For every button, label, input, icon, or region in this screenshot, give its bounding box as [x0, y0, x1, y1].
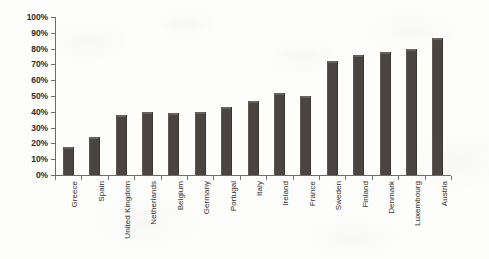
bar [327, 61, 338, 175]
y-axis-tick-mark [51, 143, 56, 144]
bar [380, 52, 391, 175]
y-axis-tick-label: 90% [6, 29, 48, 38]
y-axis-tick-mark [51, 159, 56, 160]
x-axis-category-label: Sweden [335, 181, 343, 210]
bar [300, 96, 311, 175]
x-axis-category-label: Ireland [282, 181, 290, 206]
x-axis-category-label: Finland [362, 181, 370, 208]
y-axis-tick-label: 100% [6, 13, 48, 22]
chart-screenshot: 100%90%80%70%60%50%40%30%20%10%0% Greece… [0, 0, 489, 259]
bar [142, 112, 153, 175]
x-axis-tick-mark [372, 176, 373, 180]
x-axis-tick-mark [345, 176, 346, 180]
x-axis-category-labels: GreeceSpainUnited KingdomNetherlandsBelg… [55, 181, 451, 257]
x-axis-tick-mark [81, 176, 82, 180]
y-axis-tick-mark [51, 112, 56, 113]
x-axis-tick-mark [55, 176, 56, 180]
bar [195, 112, 206, 175]
y-axis-tick-mark [51, 33, 56, 34]
plot-area [55, 17, 451, 175]
bar [406, 49, 417, 175]
x-axis-category-label: United Kingdom [124, 181, 132, 239]
bar [432, 38, 443, 175]
y-axis-tick-label: 50% [6, 92, 48, 101]
x-axis-tick-mark [293, 176, 294, 180]
x-axis-category-label: Italy [256, 181, 264, 196]
y-axis-tick-mark [51, 64, 56, 65]
bar [116, 115, 127, 175]
y-axis-tick-mark [51, 128, 56, 129]
x-axis-category-label: Belgium [177, 181, 185, 210]
x-axis-tick-mark [108, 176, 109, 180]
y-axis-tick-label: 80% [6, 44, 48, 53]
y-axis-tick-mark [51, 17, 56, 18]
y-axis-tick-label: 70% [6, 60, 48, 69]
bar [89, 137, 100, 175]
x-axis-tick-mark [161, 176, 162, 180]
x-axis-tick-mark [240, 176, 241, 180]
y-axis-tick-label: 20% [6, 139, 48, 148]
x-axis-category-label: Germany [203, 181, 211, 214]
x-axis-category-label: Luxembourg [414, 181, 422, 226]
bar [274, 93, 285, 175]
x-axis-tick-mark [266, 176, 267, 180]
x-axis-category-label: Austria [441, 181, 449, 206]
x-axis-category-label: Denmark [388, 181, 396, 214]
x-axis-category-label: France [309, 181, 317, 206]
bar [248, 101, 259, 175]
x-axis-tick-mark [319, 176, 320, 180]
x-axis-tick-mark [398, 176, 399, 180]
bar [63, 147, 74, 175]
y-axis-tick-label: 30% [6, 123, 48, 132]
x-axis-tick-mark [425, 176, 426, 180]
bar [221, 107, 232, 175]
bar [168, 113, 179, 175]
y-axis-tick-label: 40% [6, 108, 48, 117]
y-axis-tick-label: 60% [6, 76, 48, 85]
x-axis-tick-mark [451, 176, 452, 180]
y-axis-tick-label: 10% [6, 155, 48, 164]
y-axis-tick-label: 0% [6, 171, 48, 180]
x-axis-category-label: Spain [98, 181, 106, 202]
x-axis-tick-mark [134, 176, 135, 180]
x-axis-category-label: Netherlands [150, 181, 158, 225]
y-axis-tick-mark [51, 49, 56, 50]
bar-chart: 100%90%80%70%60%50%40%30%20%10%0% Greece… [0, 0, 489, 259]
x-axis-category-label: Greece [71, 181, 79, 208]
x-axis-line [55, 175, 451, 176]
bar [353, 55, 364, 175]
y-axis-tick-mark [51, 80, 56, 81]
x-axis-category-label: Portugal [230, 181, 238, 211]
x-axis-tick-mark [187, 176, 188, 180]
y-axis-tick-labels: 100%90%80%70%60%50%40%30%20%10%0% [6, 11, 48, 175]
x-axis-tick-mark [213, 176, 214, 180]
y-axis-tick-mark [51, 96, 56, 97]
